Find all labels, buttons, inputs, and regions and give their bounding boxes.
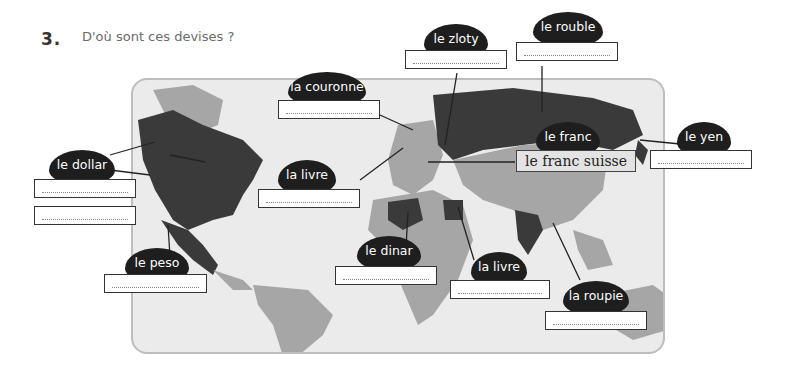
currency-label-dinar: le dinar	[357, 236, 421, 270]
answer-field-couronne[interactable]	[278, 100, 380, 119]
answer-field-rouble[interactable]	[516, 42, 618, 61]
answer-field-dinar[interactable]	[335, 266, 437, 285]
answer-field-livre-egypt[interactable]	[450, 280, 550, 299]
answer-field-peso[interactable]	[104, 274, 207, 293]
answer-field-livre-uk[interactable]	[258, 189, 360, 208]
currency-label-rouble: le rouble	[533, 12, 603, 46]
currency-label-roupie: la roupie	[563, 281, 629, 315]
answer-field-yen[interactable]	[650, 150, 752, 169]
answer-field-dollar-1[interactable]	[34, 179, 136, 198]
answer-field-roupie[interactable]	[545, 311, 647, 330]
answer-field-dollar-2[interactable]	[34, 206, 136, 225]
answer-field-franc-filled[interactable]: le franc suisse	[516, 150, 636, 172]
answer-field-zloty[interactable]	[405, 50, 507, 69]
exercise-title: D'où sont ces devises ?	[82, 29, 234, 44]
exercise-number: 3.	[41, 29, 61, 49]
